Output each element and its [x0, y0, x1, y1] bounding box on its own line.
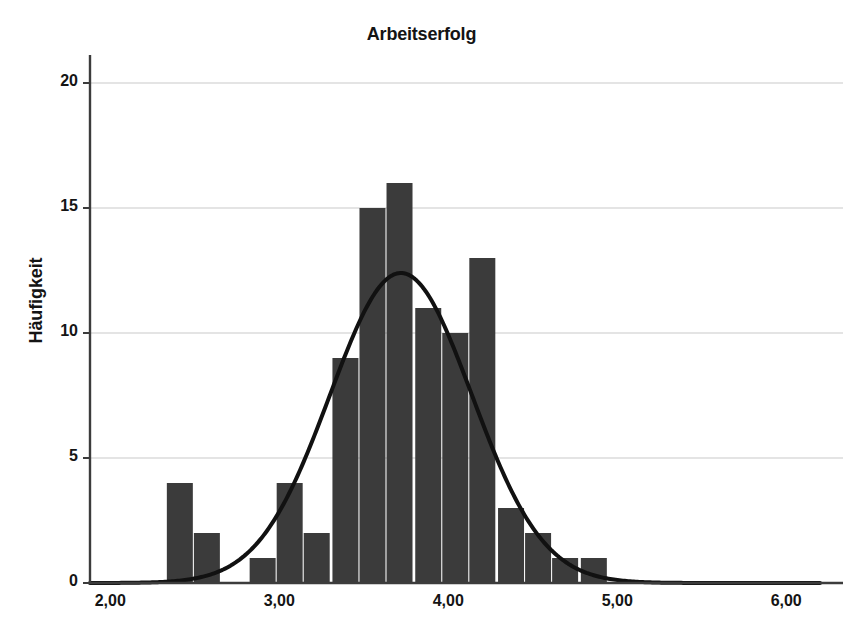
x-tick-label: 6,00	[746, 592, 826, 610]
x-tick-label: 4,00	[408, 592, 488, 610]
x-tick-label: 5,00	[577, 592, 657, 610]
x-tick-label: 2,00	[70, 592, 150, 610]
chart-container: Arbeitserfolg Häufigkeit 05101520 2,003,…	[0, 0, 843, 642]
x-tick-label: 3,00	[239, 592, 319, 610]
x-tick-labels: 2,003,004,005,006,00	[0, 0, 843, 642]
